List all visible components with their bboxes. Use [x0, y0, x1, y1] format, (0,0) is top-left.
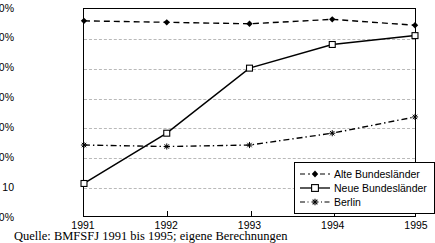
data-point-marker [81, 18, 87, 24]
data-point-marker [412, 22, 418, 28]
legend-label: Alte Bundesländer [334, 169, 420, 180]
legend-key-dashed-diamond-icon [300, 168, 330, 180]
y-axis-tick-label: 70% [0, 3, 14, 14]
legend-key-dashdot-star-icon [300, 196, 330, 208]
data-point-marker [412, 33, 418, 39]
x-axis-tick-label: 1994 [306, 220, 360, 231]
legend-label: Berlin [334, 197, 361, 208]
y-axis-tick-label: 30% [0, 122, 14, 133]
y-axis-tick-label: 40% [0, 92, 14, 103]
legend-item-alte-bundeslaender: Alte Bundesländer [300, 167, 427, 181]
legend-item-berlin: Berlin [300, 195, 427, 209]
data-point-marker [247, 65, 253, 71]
y-axis-tick-label: 10 [0, 182, 14, 193]
data-point-marker [81, 181, 87, 187]
y-axis-tick-label: 60% [0, 32, 14, 43]
x-axis-tick-label: 1995 [389, 220, 435, 231]
source-caption: Quelle: BMFSFJ 1991 bis 1995; eigene Ber… [14, 229, 288, 243]
series-alte-bundesl-nder [81, 16, 418, 28]
y-axis-tick-label: 50% [0, 62, 14, 73]
data-point-marker [164, 130, 170, 136]
data-point-marker [246, 142, 252, 148]
y-axis-tick-label: 20% [0, 152, 14, 163]
data-point-marker [164, 143, 170, 149]
series-berlin [81, 114, 418, 150]
legend-label: Neue Bundesländer [334, 183, 427, 194]
data-point-marker [329, 42, 335, 48]
data-point-marker [246, 21, 252, 27]
chart-legend: Alte Bundesländer Neue Bundesländer Berl… [294, 162, 435, 214]
data-point-marker [329, 130, 335, 136]
legend-item-neue-bundeslaender: Neue Bundesländer [300, 181, 427, 195]
data-point-marker [412, 114, 418, 120]
data-point-marker [164, 19, 170, 25]
data-point-marker [81, 142, 87, 148]
legend-key-solid-square-icon [300, 182, 330, 194]
data-point-marker [329, 16, 335, 22]
y-axis-tick-label: 0% [0, 212, 14, 223]
chart-figure: 0%1020%30%40%50%60%70% 19911992199319941… [0, 0, 435, 243]
